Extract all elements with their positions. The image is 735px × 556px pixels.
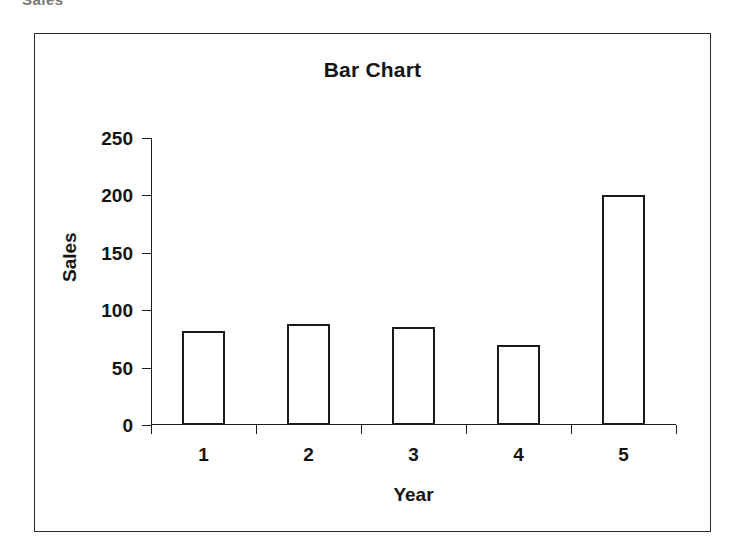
x-category-label: 4 <box>499 444 539 466</box>
y-tick: 200 <box>142 195 151 196</box>
x-axis-title: Year <box>151 484 676 506</box>
x-category-label: 3 <box>394 444 434 466</box>
bar[interactable] <box>497 345 540 425</box>
bar[interactable] <box>392 327 435 425</box>
y-tick-label: 150 <box>101 243 133 265</box>
y-tick-label: 200 <box>101 185 133 207</box>
y-axis-title: Sales <box>59 232 81 282</box>
x-tick <box>361 425 362 434</box>
y-tick: 100 <box>142 310 151 311</box>
bar[interactable] <box>287 324 330 425</box>
y-tick: 50 <box>142 368 151 369</box>
y-tick-label: 100 <box>101 300 133 322</box>
x-category-label: 1 <box>184 444 224 466</box>
x-category-label: 5 <box>604 444 644 466</box>
chart-title: Bar Chart <box>35 58 710 82</box>
x-tick <box>256 425 257 434</box>
chart-frame: Bar Chart Sales 050100150200250 12345 Ye… <box>34 33 711 532</box>
plot-area: 050100150200250 12345 <box>151 138 676 425</box>
y-tick-label: 0 <box>122 415 133 437</box>
x-tick <box>151 425 152 434</box>
bar[interactable] <box>182 331 225 425</box>
y-tick: 250 <box>142 138 151 139</box>
y-tick-label: 250 <box>101 128 133 150</box>
y-axis-line <box>151 138 152 425</box>
y-tick-label: 50 <box>112 358 133 380</box>
x-tick <box>466 425 467 434</box>
x-category-label: 2 <box>289 444 329 466</box>
scan-artifact-text: Sales <box>22 0 88 5</box>
x-tick <box>571 425 572 434</box>
bar[interactable] <box>602 195 645 425</box>
y-tick: 0 <box>142 425 151 426</box>
y-tick: 150 <box>142 253 151 254</box>
x-tick <box>676 425 677 434</box>
